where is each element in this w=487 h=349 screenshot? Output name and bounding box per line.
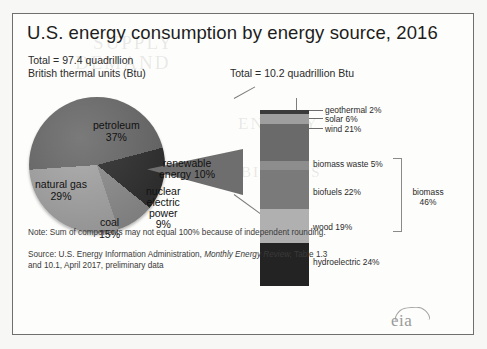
chart-frame: SUPPLY DEMAND ENERGY BIOMASS U.S. energy… <box>12 13 474 335</box>
chart-note: Note: Sum of components may not equal 10… <box>28 228 326 237</box>
chart-source: Source: U.S. Energy Information Administ… <box>28 250 327 271</box>
biomass-bracket-value: 46% <box>405 197 451 207</box>
total-left: Total = 97.4 quadrillion British thermal… <box>28 54 146 80</box>
chart-title: U.S. energy consumption by energy source… <box>27 22 438 44</box>
bar-label-biofuels: biofuels 22% <box>313 187 361 197</box>
total-left-line1: Total = 97.4 quadrillion <box>28 54 146 67</box>
chart-source-line2: and 10.1, April 2017, preliminary data <box>28 261 327 272</box>
pie-label-renewable-line2: energy 10% <box>159 169 215 180</box>
chart-source-line1: Source: U.S. Energy Information Administ… <box>28 250 327 261</box>
bar-segment-biomass-waste <box>260 161 309 170</box>
total-right: Total = 10.2 quadrillion Btu <box>230 67 354 79</box>
bar-label-wind: wind 21% <box>325 124 361 134</box>
eia-logo: eia <box>391 306 435 330</box>
pie-label-natural-gas-name: natural gas <box>35 178 87 190</box>
source-prefix: Source: U.S. Energy Information Administ… <box>28 250 204 259</box>
biomass-bracket-label: biomass 46% <box>405 187 451 207</box>
leader-solar <box>309 118 323 119</box>
pie-label-renewable-energy: renewable energy 10% <box>159 158 215 180</box>
bar-segment-solar <box>260 114 309 124</box>
bar-segment-wood <box>260 209 309 243</box>
pie-label-natural-gas: natural gas 29% <box>35 178 87 202</box>
biomass-bracket-name: biomass <box>405 187 451 197</box>
bar-segment-wind <box>260 124 309 161</box>
eia-logo-text: eia <box>391 311 412 331</box>
total-left-line2: British thermal units (Btu) <box>28 67 146 80</box>
bar-label-solar: solar 6% <box>325 114 358 124</box>
pie-label-petroleum-value: 37% <box>93 131 140 143</box>
leader-wind <box>309 128 323 129</box>
pie-label-nuclear-electric-power: nuclear electric power 9% <box>146 186 180 230</box>
chart-image: SUPPLY DEMAND ENERGY BIOMASS U.S. energy… <box>0 0 487 349</box>
pie-label-petroleum-name: petroleum <box>93 119 140 131</box>
pie-label-coal-name: coal <box>99 216 120 228</box>
pie-label-petroleum: petroleum 37% <box>93 119 140 143</box>
pie-body <box>29 97 165 233</box>
biomass-bracket <box>393 158 402 232</box>
bar-segment-biofuels <box>260 170 309 209</box>
source-table: Table 1.3 <box>292 250 327 259</box>
source-publication: Monthly Energy Review, <box>204 250 292 259</box>
pie-label-natural-gas-value: 29% <box>35 190 87 202</box>
bar-label-biomass-waste: biomass waste 5% <box>313 159 383 169</box>
leader-geothermal <box>309 110 323 111</box>
